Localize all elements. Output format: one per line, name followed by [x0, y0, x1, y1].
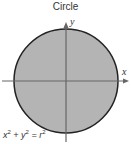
circle-equation: x2 + y2 = r2 — [3, 129, 46, 140]
eq-exp: 2 — [42, 129, 45, 135]
y-axis-arrow-icon — [64, 22, 69, 28]
eq-plus: + — [11, 130, 21, 140]
y-axis-label: y — [70, 16, 74, 27]
eq-equals: = — [29, 130, 39, 140]
x-axis-label: x — [122, 66, 126, 77]
circle-diagram — [0, 0, 131, 144]
x-axis-arrow-icon — [123, 79, 129, 84]
